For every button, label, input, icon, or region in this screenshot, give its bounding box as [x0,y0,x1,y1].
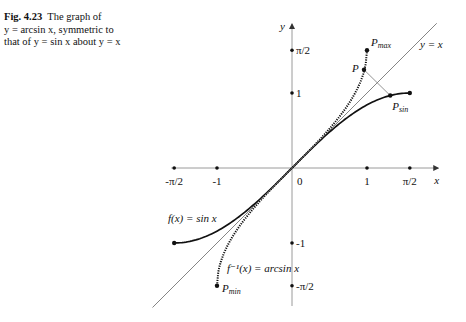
x-tick [215,166,219,170]
axes [171,24,438,306]
label-arcsin-curve: f⁻¹(x) = arcsin x [227,262,299,275]
arcsin-sin-graph: xy0-π/2-11π/2π/21-1-π/2PmaxPPsinPminy = … [0,0,466,322]
y-tick-label: 1 [296,87,302,99]
point-p-max [365,48,369,52]
x-tick [408,166,412,170]
x-tick-label: -1 [212,175,221,187]
y-tick-label: -1 [296,237,305,249]
label-identity-line: y = x [419,38,443,50]
y-tick [290,284,294,288]
label-p-sin: Psin [391,100,408,114]
point-sin-end_right [408,91,412,95]
y-tick [290,48,294,52]
x-tick-label: -π/2 [165,175,183,187]
labels: xy0-π/2-11π/2π/21-1-π/2PmaxPPsinPminy = … [165,20,443,296]
x-tick [172,166,176,170]
label-p-min: Pmin [221,282,241,296]
x-tick [365,166,369,170]
point-p [362,68,366,72]
y-tick-label: π/2 [296,44,310,56]
y-tick [290,91,294,95]
point-sin-end_left [172,241,176,245]
label-sin-curve: f(x) = sin x [168,212,217,225]
x-tick-label: 1 [364,175,370,187]
y-tick [290,241,294,245]
x-axis-label: x [433,174,439,186]
y-tick-label: -π/2 [296,280,314,292]
label-p: P [351,62,359,74]
y-axis-label: y [279,20,285,32]
x-tick-label: π/2 [403,175,417,187]
point-p-sin [388,93,392,97]
origin-label: 0 [297,175,303,187]
label-p-max: Pmax [370,36,392,50]
point-p-min [215,284,219,288]
